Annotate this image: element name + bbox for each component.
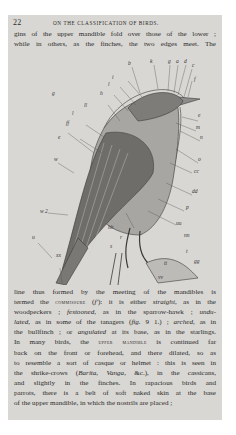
svg-text:p: p [185,204,189,210]
svg-text:a: a [176,58,179,64]
svg-text:gg: gg [194,258,200,264]
text-line: the shrike-crows (Barita, Vanga, &c.), i… [14,368,216,378]
text-line: parrots, there is a belt of soft naked s… [14,388,216,398]
term-upper-mandible: upper mandible [98,339,146,345]
svg-text:s: s [110,243,112,249]
svg-text:ff: ff [66,120,71,126]
svg-text:uu: uu [176,220,182,226]
svg-text:tt: tt [164,260,168,266]
text-line: In many birds, the upper mandible is con… [14,337,216,347]
svg-text:e: e [198,112,201,118]
text-line: gins of the upper mandible fold over tho… [14,29,216,39]
svg-text:xx: xx [55,252,61,258]
text-line: woodpeckers ; festooned, as in the sparr… [14,307,216,317]
text-line: termed the commissure (f'): it is either… [14,297,216,307]
svg-text:h: h [100,90,103,96]
svg-text:f: f [194,76,197,82]
svg-text:dd: dd [192,188,198,194]
running-title: ON THE CLASSIFICATION OF BIRDS. [53,18,159,28]
svg-text:m: m [196,124,200,130]
svg-text:e: e [58,134,61,140]
svg-text:l: l [72,110,74,116]
svg-text:vv: vv [158,274,163,280]
svg-text:d: d [184,58,187,64]
text-line: of the upper mandible, in which the nost… [14,398,216,408]
svg-text:g: g [52,90,55,96]
top-paragraph: gins of the upper mandible fold over tho… [14,29,216,49]
text-line: back on the front or forehead, and there… [14,348,216,358]
svg-text:i: i [112,74,114,80]
svg-text:nn: nn [184,232,190,238]
text-line: while in others, as the finches, the two… [14,39,216,49]
bird-illustration: g b k g a d c f i l h ll l ff e e m n o … [8,53,222,285]
page-number: 22 [13,18,21,28]
text-line: the bullfinch ; or angulated at its base… [14,327,216,337]
text-line: to resemble a sort of casque or helmet :… [14,358,216,368]
page-header: 22 ON THE CLASSIFICATION OF BIRDS. [13,18,217,28]
bird-anatomy-figure: g b k g a d c f i l h ll l ff e e m n o … [8,53,222,285]
book-page: 22 ON THE CLASSIFICATION OF BIRDS. gins … [8,15,222,420]
svg-text:k: k [150,58,153,64]
text-line: lated, as in some of the tanagers (fig. … [14,317,216,327]
svg-text:w: w [54,156,58,162]
svg-text:u: u [32,234,35,240]
svg-text:cc: cc [194,168,199,174]
svg-text:l: l [108,81,110,87]
svg-text:b: b [128,60,131,66]
text-line: line thus formed by the meeting of the m… [14,287,216,297]
svg-text:ll: ll [84,102,88,108]
term-commissure: commissure [55,299,85,305]
svg-text:r: r [120,234,123,240]
svg-text:g: g [168,58,171,64]
svg-text:n: n [200,134,203,140]
svg-text:w 2: w 2 [40,208,48,214]
svg-text:c: c [192,62,195,68]
svg-text:o: o [198,156,201,162]
svg-text:hh: hh [108,224,114,230]
bottom-paragraph: line thus formed by the meeting of the m… [14,287,216,408]
text-line: and slightly in the finches. In rapaciou… [14,378,216,388]
svg-text:t: t [186,248,188,254]
